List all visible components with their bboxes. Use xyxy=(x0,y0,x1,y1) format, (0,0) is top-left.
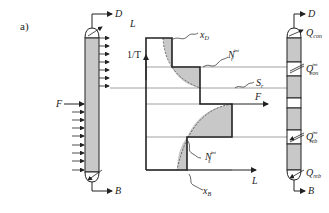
Sr-leader xyxy=(235,82,254,88)
xB-leader xyxy=(189,174,203,190)
left-bottom-product-arrow xyxy=(92,182,112,191)
right-bottom-product-label: B xyxy=(308,185,314,196)
q-con-int-label: Qintcon xyxy=(306,62,318,76)
right-bottom-product-arrow xyxy=(294,180,305,191)
right-column-segment-4 xyxy=(287,144,301,170)
right-reboiler-icon xyxy=(287,170,301,180)
left-side-feed-arrows xyxy=(72,112,84,170)
panel-label: a) xyxy=(20,20,29,33)
Nr-leader xyxy=(203,57,228,67)
right-condenser-icon xyxy=(287,28,301,38)
top-axis-label: L xyxy=(129,18,136,29)
xD-leader xyxy=(173,33,198,39)
right-column-segment-1 xyxy=(287,38,301,62)
right-column-segment-3 xyxy=(287,108,301,130)
left-column-body xyxy=(85,38,99,172)
right-column-segment-2 xyxy=(287,76,301,98)
chart-feed-label: F xyxy=(254,91,262,102)
q-reb-label: Qreb xyxy=(306,167,321,179)
Sr-label: Sr xyxy=(256,77,264,89)
left-side-draw-arrows xyxy=(99,38,109,86)
right-top-product-label: D xyxy=(307,8,316,19)
center-chart: 1/T L L F xD Nintr Sr Nints xB xyxy=(110,18,287,197)
right-feed-stage xyxy=(287,98,301,108)
q-reb-int-label: Qintreb xyxy=(306,130,318,144)
right-column: D Qcon Qintcon Qintreb Qreb B xyxy=(287,8,322,196)
left-top-product-label: D xyxy=(114,8,123,19)
diagram-canvas: a) D B F xyxy=(0,0,329,213)
xD-label: xD xyxy=(199,29,209,41)
right-intermediate-reboiler xyxy=(287,130,301,144)
Nr-label: Nintr xyxy=(227,48,240,62)
q-con-label: Qcon xyxy=(306,27,322,39)
stripping-shaded-region xyxy=(187,104,232,137)
y-axis-label: 1/T xyxy=(127,49,141,60)
Ns-leader xyxy=(188,141,201,158)
left-top-product-arrow xyxy=(92,14,112,30)
left-feed-label: F xyxy=(55,98,63,109)
left-column: D B F xyxy=(55,8,123,196)
x-axis-label: L xyxy=(251,175,258,186)
right-top-product-arrow xyxy=(294,14,305,30)
left-bottom-product-label: B xyxy=(115,185,121,196)
Ns-label: Nints xyxy=(204,150,217,164)
xB-label: xB xyxy=(202,185,211,197)
